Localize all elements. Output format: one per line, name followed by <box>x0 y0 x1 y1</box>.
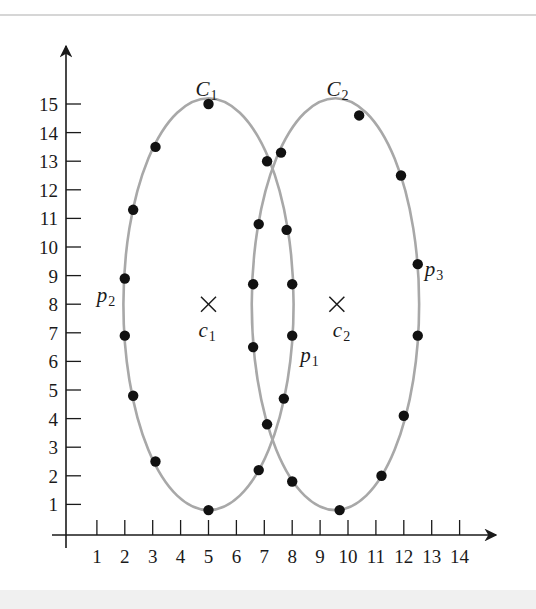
data-point <box>376 471 386 481</box>
data-point <box>281 225 291 235</box>
cluster-ellipse-c2 <box>252 98 419 510</box>
data-point <box>254 465 264 475</box>
x-tick-label: 1 <box>92 546 102 567</box>
data-point <box>262 156 272 166</box>
y-tick-label: 6 <box>49 351 59 372</box>
x-tick-label: 9 <box>315 546 325 567</box>
cluster-label-c1: C1 <box>196 77 218 103</box>
data-point <box>396 170 406 180</box>
x-tick-label: 8 <box>287 546 297 567</box>
y-tick-label: 4 <box>49 409 59 430</box>
labels: C1C2c1c2p1p2p3 <box>95 77 443 369</box>
x-tick-label: 11 <box>367 546 385 567</box>
y-tick-label: 15 <box>39 94 58 115</box>
cluster-label-c2: C2 <box>326 77 348 103</box>
data-point <box>279 393 289 403</box>
y-tick-label: 12 <box>39 180 58 201</box>
centroid-label-c2: c2 <box>333 318 350 344</box>
point-label-p2: p2 <box>95 283 116 309</box>
data-point <box>334 505 344 515</box>
data-point <box>287 330 297 340</box>
y-tick-label: 14 <box>39 123 59 144</box>
x-tick-label: 2 <box>120 546 130 567</box>
data-point <box>150 142 160 152</box>
data-point <box>120 330 130 340</box>
y-tick-label: 7 <box>49 323 59 344</box>
data-point <box>150 456 160 466</box>
point-label-p1: p1 <box>298 343 319 369</box>
y-tick-label: 5 <box>49 380 59 401</box>
data-point <box>399 411 409 421</box>
data-point <box>354 110 364 120</box>
data-point <box>262 419 272 429</box>
centroid-label-c1: c1 <box>199 318 216 344</box>
y-tick-label: 3 <box>49 437 59 458</box>
x-tick-label: 3 <box>148 546 158 567</box>
x-tick-label: 10 <box>339 546 358 567</box>
data-point <box>287 476 297 486</box>
x-tick-label: 6 <box>232 546 242 567</box>
y-tick-label: 13 <box>39 151 58 172</box>
data-point <box>413 259 423 269</box>
data-point <box>287 279 297 289</box>
centroid-marker-icon <box>329 297 344 312</box>
x-tick-label: 5 <box>204 546 214 567</box>
data-point <box>120 273 130 283</box>
data-point <box>248 279 258 289</box>
centroid-marker-icon <box>201 297 216 312</box>
data-point <box>203 505 213 515</box>
y-tick-label: 11 <box>40 208 58 229</box>
point-label-p3: p3 <box>423 257 444 283</box>
cluster-diagram: 1234567891011121314123456789101112131415… <box>0 0 536 609</box>
x-tick-label: 4 <box>176 546 186 567</box>
data-point <box>254 219 264 229</box>
data-point <box>128 205 138 215</box>
data-point <box>413 330 423 340</box>
x-tick-label: 13 <box>422 546 441 567</box>
x-tick-label: 7 <box>260 546 270 567</box>
y-tick-label: 10 <box>39 237 58 258</box>
y-tick-label: 1 <box>49 494 59 515</box>
y-tick-label: 9 <box>49 266 59 287</box>
data-points <box>120 99 423 516</box>
x-tick-label: 14 <box>450 546 470 567</box>
data-point <box>128 391 138 401</box>
y-tick-label: 2 <box>49 466 59 487</box>
data-point <box>248 342 258 352</box>
data-point <box>276 147 286 157</box>
y-tick-label: 8 <box>49 294 59 315</box>
x-tick-label: 12 <box>394 546 413 567</box>
